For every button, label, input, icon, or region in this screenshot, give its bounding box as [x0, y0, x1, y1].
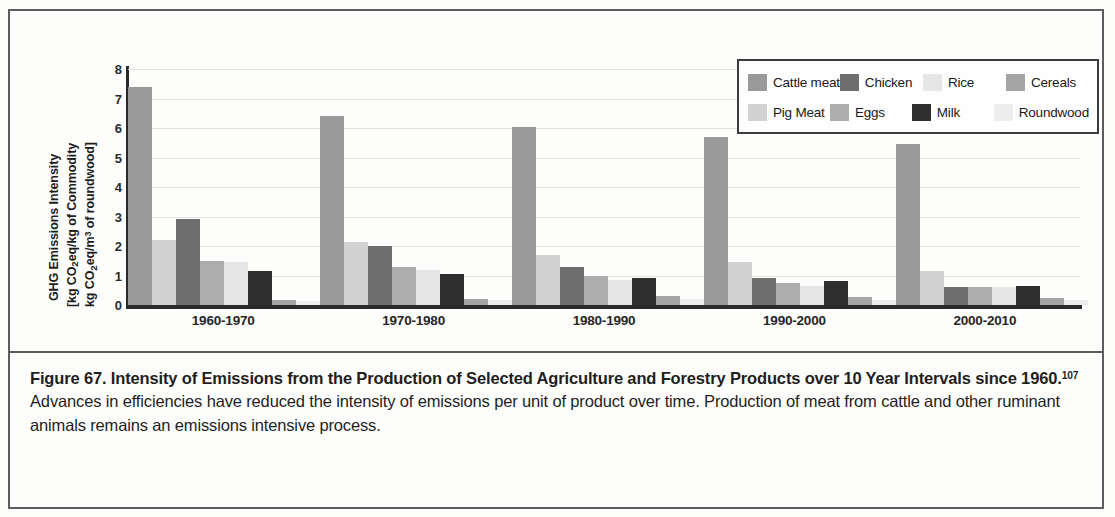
y-axis-tick-label: 6 — [96, 121, 122, 136]
bar-milk — [248, 271, 272, 305]
y-axis-title-line1: GHG Emissions Intensity — [47, 154, 61, 301]
legend-swatch-icon — [1006, 74, 1025, 91]
figure-caption: Figure 67. Intensity of Emissions from t… — [10, 353, 1102, 447]
legend-label: Chicken — [865, 75, 912, 90]
legend-swatch-icon — [840, 74, 859, 91]
bar-cattle-meat — [128, 87, 152, 305]
y-axis-tick-label: 0 — [96, 298, 122, 313]
x-axis-tick-label: 2000-2010 — [890, 313, 1080, 328]
y-axis-tick-label: 4 — [96, 180, 122, 195]
legend-swatch-icon — [748, 104, 767, 121]
y-axis-tick-label: 7 — [96, 91, 122, 106]
bar-group — [320, 69, 512, 305]
y-axis-tick-label: 2 — [96, 239, 122, 254]
bar-rice — [416, 270, 440, 305]
legend-label: Eggs — [855, 105, 885, 120]
y-axis-tick-label: 8 — [96, 62, 122, 77]
y-axis-tick-labels: 012345678 — [92, 69, 122, 305]
bar-cereals — [656, 296, 680, 305]
bar-chicken — [944, 287, 968, 305]
bar-cattle-meat — [512, 127, 536, 305]
legend-item-rice[interactable]: Rice — [923, 74, 1006, 91]
legend-swatch-icon — [994, 104, 1013, 121]
legend-swatch-icon — [748, 74, 767, 91]
legend-label: Roundwood — [1019, 105, 1089, 120]
bar-eggs — [776, 283, 800, 305]
legend-label: Pig Meat — [773, 105, 825, 120]
x-axis-tick-label: 1990-2000 — [699, 313, 889, 328]
bar-group — [512, 69, 704, 305]
legend-item-chicken[interactable]: Chicken — [840, 74, 923, 91]
legend-label: Cereals — [1031, 75, 1076, 90]
bar-eggs — [200, 261, 224, 305]
bar-chicken — [752, 278, 776, 305]
legend-swatch-icon — [912, 104, 931, 121]
bar-milk — [1016, 286, 1040, 305]
bar-rice — [800, 286, 824, 305]
y-axis-title: GHG Emissions Intensity [kg CO2eq/kg of … — [32, 39, 86, 307]
legend-label: Cattle meat — [773, 75, 840, 90]
bar-rice — [992, 287, 1016, 305]
bar-eggs — [392, 267, 416, 305]
figure-page: GHG Emissions Intensity [kg CO2eq/kg of … — [0, 0, 1115, 517]
bar-eggs — [584, 276, 608, 306]
bar-chicken — [560, 267, 584, 305]
bar-roundwood — [296, 301, 320, 305]
bar-rice — [608, 280, 632, 305]
legend-item-eggs[interactable]: Eggs — [830, 104, 912, 121]
bar-chicken — [176, 219, 200, 305]
bar-milk — [632, 278, 656, 305]
bar-cattle-meat — [704, 137, 728, 305]
caption-body: Advances in efficiencies have reduced th… — [30, 392, 1060, 433]
chart-legend: Cattle meatChickenRiceCereals Pig MeatEg… — [737, 59, 1099, 134]
bar-pig-meat — [344, 242, 368, 305]
bar-roundwood — [488, 300, 512, 305]
caption-title: Figure 67. Intensity of Emissions from t… — [30, 369, 1062, 387]
bar-eggs — [968, 287, 992, 305]
legend-swatch-icon — [923, 74, 942, 91]
caption-footnote-marker: 107 — [1062, 370, 1079, 381]
y-axis-tick-label: 3 — [96, 209, 122, 224]
chart-area: GHG Emissions Intensity [kg CO2eq/kg of … — [10, 11, 1102, 351]
y-axis-tick-label: 5 — [96, 150, 122, 165]
y-axis-title-line2: [kg CO2eq/kg of Commodity — [65, 143, 80, 307]
legend-item-cattle-meat[interactable]: Cattle meat — [748, 74, 840, 91]
bar-group — [128, 69, 320, 305]
bar-roundwood — [872, 300, 896, 305]
x-axis-tick-label: 1970-1980 — [318, 313, 508, 328]
bar-cattle-meat — [896, 144, 920, 305]
bar-chicken — [368, 246, 392, 305]
x-axis-line — [126, 305, 1082, 309]
bar-pig-meat — [728, 262, 752, 305]
legend-row: Pig MeatEggsMilkRoundwood — [748, 97, 1089, 127]
bar-milk — [824, 281, 848, 305]
legend-item-pig-meat[interactable]: Pig Meat — [748, 104, 830, 121]
legend-item-cereals[interactable]: Cereals — [1006, 74, 1089, 91]
legend-label: Rice — [948, 75, 974, 90]
legend-item-roundwood[interactable]: Roundwood — [994, 104, 1089, 121]
legend-swatch-icon — [830, 104, 849, 121]
bar-pig-meat — [536, 255, 560, 305]
x-axis-tick-label: 1980-1990 — [509, 313, 699, 328]
bar-pig-meat — [920, 271, 944, 305]
x-axis-tick-label: 1960-1970 — [128, 313, 318, 328]
x-axis-tick-labels: 1960-19701970-19801980-19901990-20002000… — [128, 313, 1080, 328]
legend-item-milk[interactable]: Milk — [912, 104, 994, 121]
legend-row: Cattle meatChickenRiceCereals — [748, 67, 1089, 97]
bar-cereals — [464, 299, 488, 305]
bar-cereals — [272, 300, 296, 305]
bar-roundwood — [680, 299, 704, 305]
bar-roundwood — [1064, 300, 1088, 305]
bar-milk — [440, 274, 464, 305]
y-axis-tick-label: 1 — [96, 268, 122, 283]
bar-cereals — [1040, 298, 1064, 305]
figure-frame: GHG Emissions Intensity [kg CO2eq/kg of … — [8, 9, 1104, 509]
legend-label: Milk — [937, 105, 960, 120]
bar-pig-meat — [152, 240, 176, 305]
bar-rice — [224, 262, 248, 305]
bar-cattle-meat — [320, 116, 344, 305]
bar-cereals — [848, 297, 872, 305]
